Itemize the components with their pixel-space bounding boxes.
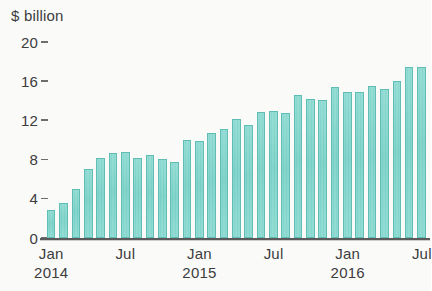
bar-slot xyxy=(230,42,242,238)
bar xyxy=(121,152,130,238)
x-axis-year-label: 2016 xyxy=(331,263,365,282)
bar-slot xyxy=(57,42,69,238)
bar-slot xyxy=(280,42,292,238)
x-axis-month-label: Jan xyxy=(34,244,68,263)
bar xyxy=(306,99,315,238)
plot-area xyxy=(45,42,428,238)
bar-slot xyxy=(181,42,193,238)
bar xyxy=(183,140,192,238)
x-axis-tick: Jul xyxy=(264,244,284,263)
bar-slot xyxy=(267,42,279,238)
x-axis-month-label: Jan xyxy=(331,244,365,263)
bars-layer xyxy=(45,42,428,238)
bar-slot xyxy=(144,42,156,238)
bar-slot xyxy=(82,42,94,238)
bar xyxy=(244,125,253,238)
bar xyxy=(405,67,414,239)
bar xyxy=(47,210,56,238)
x-axis-tick: Jan2014 xyxy=(34,244,68,282)
bar-slot xyxy=(255,42,267,238)
y-axis-tick: 12 xyxy=(21,112,48,128)
bar xyxy=(84,169,93,238)
x-axis: Jan2014JulJan2015JulJan2016Jul xyxy=(0,244,431,291)
bar xyxy=(232,119,241,238)
bar xyxy=(318,100,327,238)
bar-slot xyxy=(218,42,230,238)
y-axis-tick-label: 4 xyxy=(29,191,38,206)
bar xyxy=(146,155,155,238)
bar xyxy=(393,81,402,238)
x-axis-tick: Jan2015 xyxy=(182,244,216,282)
bar-slot xyxy=(168,42,180,238)
bar xyxy=(195,141,204,238)
bar xyxy=(158,159,167,238)
bar-slot xyxy=(391,42,403,238)
x-axis-tick: Jan2016 xyxy=(331,244,365,282)
y-axis-tick-label: 16 xyxy=(21,74,38,89)
bar xyxy=(109,153,118,238)
bar xyxy=(417,67,426,238)
bar xyxy=(294,95,303,238)
y-axis-tick-label: 20 xyxy=(21,35,38,50)
bar-slot xyxy=(317,42,329,238)
x-axis-line-shadow xyxy=(40,240,430,241)
bar-slot xyxy=(304,42,316,238)
bar-slot xyxy=(354,42,366,238)
bar xyxy=(59,203,68,238)
bar-slot xyxy=(119,42,131,238)
bar-slot xyxy=(378,42,390,238)
bar-slot xyxy=(131,42,143,238)
bar-slot xyxy=(94,42,106,238)
bar xyxy=(380,89,389,238)
bar-slot xyxy=(243,42,255,238)
bar-slot xyxy=(292,42,304,238)
x-axis-tick: Jul xyxy=(115,244,135,263)
bar-slot xyxy=(70,42,82,238)
bar xyxy=(96,158,105,238)
bar-slot xyxy=(45,42,57,238)
x-axis-month-label: Jul xyxy=(264,244,284,263)
bar-slot xyxy=(329,42,341,238)
y-axis-tick: 20 xyxy=(21,34,48,50)
y-axis-tick-label: 8 xyxy=(29,152,38,167)
bar-slot xyxy=(415,42,427,238)
bar xyxy=(72,189,81,238)
bar xyxy=(220,129,229,238)
x-axis-year-label: 2014 xyxy=(34,263,68,282)
bar-slot xyxy=(403,42,415,238)
bar xyxy=(133,158,142,238)
bar xyxy=(269,111,278,238)
y-axis-tick: 16 xyxy=(21,73,48,89)
x-axis-month-label: Jan xyxy=(182,244,216,263)
bar xyxy=(368,86,377,238)
y-axis-tick-label: 12 xyxy=(21,113,38,128)
x-axis-month-label: Jul xyxy=(412,244,432,263)
x-axis-tick: Jul xyxy=(412,244,432,263)
bar xyxy=(355,92,364,238)
bar-slot xyxy=(341,42,353,238)
bar xyxy=(281,113,290,238)
bar-slot xyxy=(107,42,119,238)
bar-slot xyxy=(156,42,168,238)
bar-slot xyxy=(366,42,378,238)
x-axis-year-label: 2015 xyxy=(182,263,216,282)
bar-slot xyxy=(193,42,205,238)
x-axis-month-label: Jul xyxy=(115,244,135,263)
bar xyxy=(343,92,352,238)
bar xyxy=(207,133,216,238)
bar xyxy=(170,162,179,238)
bar xyxy=(331,87,340,238)
bar-slot xyxy=(205,42,217,238)
bar xyxy=(257,112,266,238)
